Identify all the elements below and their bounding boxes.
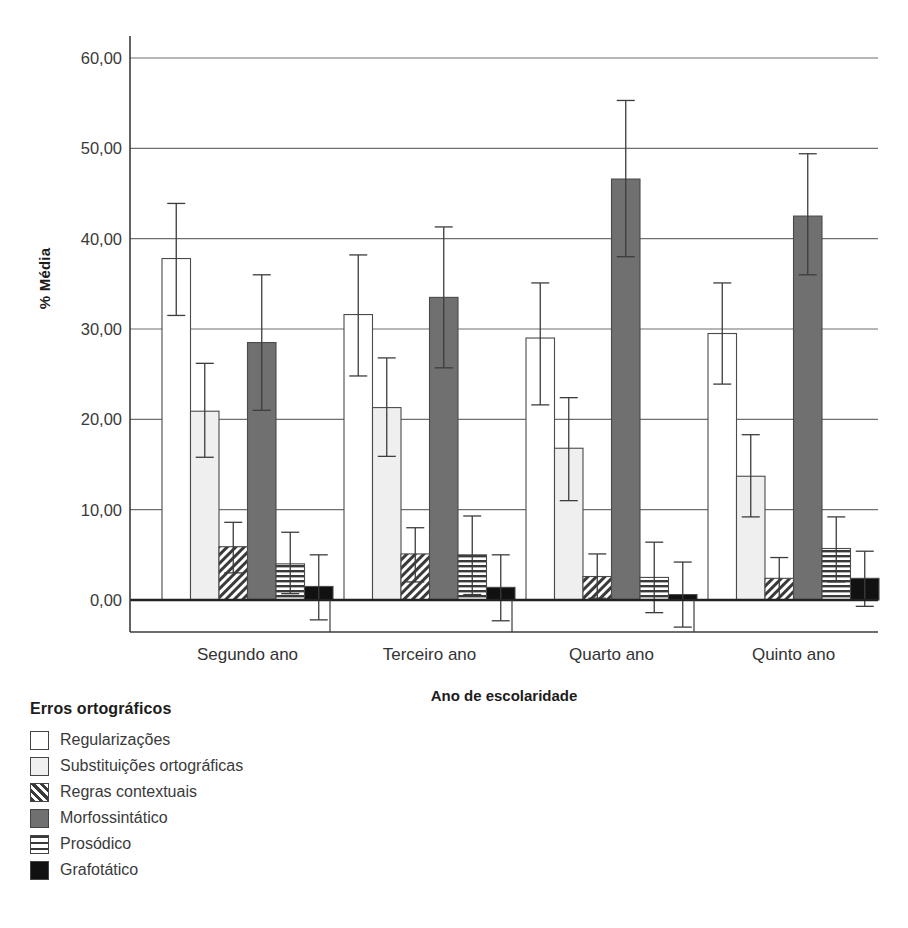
legend-swatch-icon bbox=[30, 731, 49, 750]
legend-title: Erros ortográficos bbox=[30, 700, 460, 718]
legend-swatch-icon bbox=[30, 835, 49, 854]
legend-label: Prosódico bbox=[60, 835, 131, 853]
legend-swatch-icon bbox=[30, 757, 49, 776]
legend-label: Regras contextuais bbox=[60, 783, 197, 801]
gridlines bbox=[130, 58, 878, 510]
x-tick-label: Quinto ano bbox=[752, 645, 835, 665]
x-tick-label: Segundo ano bbox=[197, 645, 298, 665]
legend-label: Substituições ortográficas bbox=[60, 757, 243, 775]
x-tick-label: Terceiro ano bbox=[383, 645, 477, 665]
legend-swatch-icon bbox=[30, 809, 49, 828]
legend: Erros ortográficos RegularizaçõesSubstit… bbox=[30, 700, 460, 883]
bar-chart: % Média 0,0010,0020,0030,0040,0050,0060,… bbox=[0, 0, 908, 928]
legend-rows: RegularizaçõesSubstituições ortográficas… bbox=[30, 727, 460, 883]
legend-item: Prosódico bbox=[30, 831, 460, 857]
axes-layer bbox=[130, 36, 878, 632]
legend-label: Morfossintático bbox=[60, 809, 168, 827]
bars-layer bbox=[162, 100, 879, 627]
x-tick-label: Quarto ano bbox=[569, 645, 654, 665]
legend-item: Regras contextuais bbox=[30, 779, 460, 805]
legend-swatch-icon bbox=[30, 861, 49, 880]
legend-label: Regularizações bbox=[60, 731, 170, 749]
legend-swatch-icon bbox=[30, 783, 49, 802]
legend-label: Grafotático bbox=[60, 861, 138, 879]
legend-item: Substituições ortográficas bbox=[30, 753, 460, 779]
legend-item: Grafotático bbox=[30, 857, 460, 883]
legend-item: Regularizações bbox=[30, 727, 460, 753]
legend-item: Morfossintático bbox=[30, 805, 460, 831]
